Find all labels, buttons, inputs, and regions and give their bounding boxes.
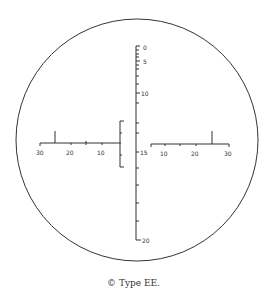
right-label-10: 10 [160, 150, 168, 157]
reticle-diagram: 0 5 10 15 20 30 20 10 10 20 30 [0, 0, 267, 297]
left-label-30: 30 [36, 149, 44, 156]
v-label-15: 15 [140, 149, 148, 156]
right-label-20: 20 [191, 150, 199, 157]
figure-caption: © Type EE. [0, 278, 267, 288]
v-label-0: 0 [143, 44, 147, 51]
v-label-5: 5 [143, 58, 147, 65]
left-label-20: 20 [66, 149, 74, 156]
right-label-30: 30 [224, 150, 232, 157]
v-label-20: 20 [142, 237, 150, 244]
left-label-10: 10 [97, 149, 105, 156]
field-of-view-circle [16, 19, 258, 261]
v-label-10: 10 [141, 90, 149, 97]
